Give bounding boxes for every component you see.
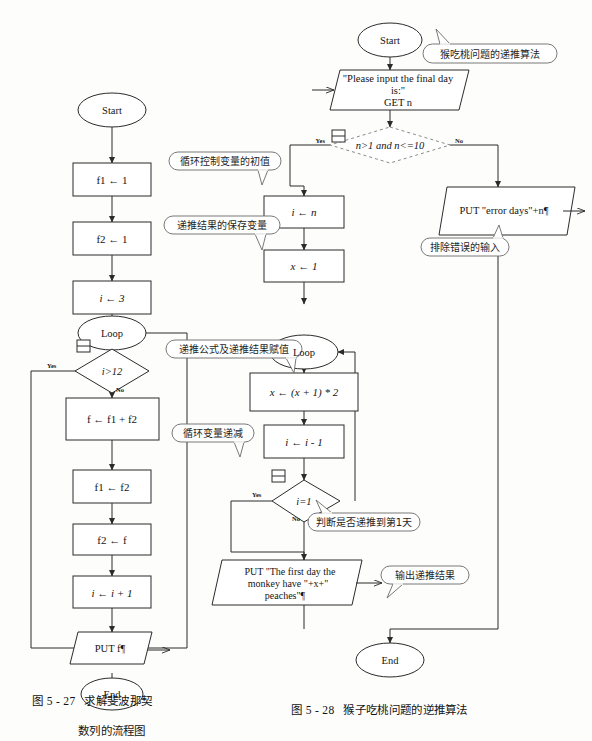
callout-text-decr: 循环变量递减 xyxy=(183,427,243,439)
callout-text-formula: 递推公式及递推结果赋值 xyxy=(179,343,289,355)
label-f1init: f1 ← 1 xyxy=(96,174,127,186)
label-iinit: i ← 3 xyxy=(99,292,125,304)
label-put-left: PUT f¶ xyxy=(95,643,126,654)
callout-text-algo: 猴吃桃问题的递推算法 xyxy=(440,48,540,60)
caption-right-line1: 猴子吃桃问题的逆推算法 xyxy=(343,704,467,716)
caption-right-number: 图 5 - 28 xyxy=(291,704,334,716)
caption-figure-left: 图 5 - 27求解斐波那契 数列的流程图 xyxy=(26,679,152,741)
caption-left-line1: 求解斐波那契 xyxy=(84,695,152,707)
label-recur: x ← (x + 1) * 2 xyxy=(269,386,339,399)
label-start-right: Start xyxy=(380,35,400,46)
label-yes-cond2: Yes xyxy=(252,491,262,498)
label-decr: i ← i - 1 xyxy=(285,436,322,448)
label-end-right: End xyxy=(382,655,400,666)
label-start-left: Start xyxy=(102,105,122,116)
callout-text-checkday: 判断是否递推到第1天 xyxy=(316,516,412,528)
label-no-left: No xyxy=(116,386,124,393)
callout-text-badinput: 排除错误的输入 xyxy=(430,241,500,253)
label-yes-cond1: Yes xyxy=(316,137,326,144)
callout-text-savevar: 递推结果的保存变量 xyxy=(177,219,267,231)
label-iinit-right: i ← n xyxy=(291,206,317,218)
label-no-cond1: No xyxy=(455,137,463,144)
label-error-out: PUT "error days"+n¶ xyxy=(459,205,548,216)
label-loop-right: Loop xyxy=(293,347,315,358)
label-sum: f ← f1 + f2 xyxy=(87,413,137,425)
label-output-l3: peaches"¶ xyxy=(265,590,306,601)
label-no-cond2: No xyxy=(292,515,300,522)
label-output-l1: PUT "The first day the xyxy=(244,566,336,577)
label-cond1: n>1 and n<=10 xyxy=(356,140,425,151)
caption-left-line2: 数列的流程图 xyxy=(78,724,152,739)
label-output-l2: monkey have "+x+" xyxy=(248,578,329,589)
caption-left-number: 图 5 - 27 xyxy=(32,695,75,707)
label-input-l3: GET n xyxy=(384,97,413,108)
label-sh1: f1 ← f2 xyxy=(95,481,130,493)
callout-text-initval: 循环控制变量的初值 xyxy=(180,155,270,167)
label-input-l2: is:" xyxy=(391,85,405,96)
label-sh2: f2 ← f xyxy=(97,534,127,546)
label-input-l1: "Please input the final day xyxy=(343,73,454,84)
label-decision-left: i>12 xyxy=(102,366,123,377)
label-f2init: f2 ← 1 xyxy=(96,233,127,245)
label-xinit: x ← 1 xyxy=(290,260,318,272)
label-incr: i ← i + 1 xyxy=(91,587,132,599)
label-cond2: i=1 xyxy=(296,496,311,507)
label-yes-left: Yes xyxy=(47,362,57,369)
caption-figure-right: 图 5 - 28猴子吃桃问题的逆推算法 xyxy=(285,688,468,718)
label-loop-left: Loop xyxy=(101,328,123,339)
callout-text-output: 输出递推结果 xyxy=(395,569,455,581)
